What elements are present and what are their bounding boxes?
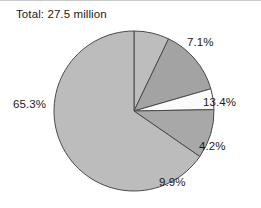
pie-chart-figure: Total: 27.5 million 7.1% 13.4% 4.2% 9.9%… bbox=[0, 0, 261, 208]
pie-label-3: 9.9% bbox=[159, 176, 186, 188]
pie-label-0: 7.1% bbox=[187, 36, 214, 48]
pie-label-1: 13.4% bbox=[203, 96, 236, 108]
pie-slice-group bbox=[54, 31, 214, 191]
pie-label-4: 65.3% bbox=[13, 98, 46, 110]
pie-label-2: 4.2% bbox=[199, 140, 226, 152]
